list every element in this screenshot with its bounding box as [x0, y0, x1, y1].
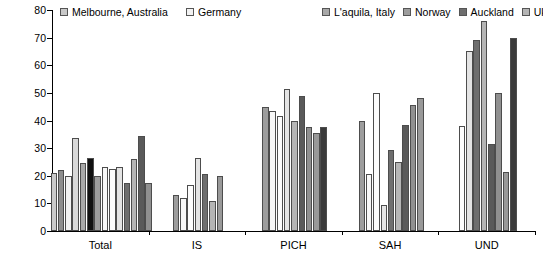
- bar: [503, 172, 510, 231]
- bar: [320, 127, 327, 231]
- y-axis-tick-label: 0: [40, 226, 46, 237]
- chart-root: 01020304050607080 TotalISPICHSAHUND Melb…: [0, 0, 543, 267]
- bar: [131, 159, 138, 231]
- bar: [138, 136, 145, 231]
- x-axis-tick-label: UND: [475, 240, 499, 251]
- bar: [116, 167, 123, 231]
- bar: [488, 144, 495, 231]
- legend-item-label: Melbourne, Australia: [72, 7, 168, 18]
- bar: [359, 121, 366, 232]
- legend-item-label: Norway: [415, 7, 451, 18]
- x-axis-tick: [438, 231, 439, 235]
- bar: [187, 185, 194, 231]
- y-axis-tick: [47, 148, 52, 149]
- legend-item[interactable]: Norway: [403, 6, 451, 19]
- bar: [510, 38, 517, 231]
- bar: [459, 126, 466, 231]
- bar: [299, 96, 306, 231]
- bar: [58, 170, 65, 231]
- bar: [402, 125, 409, 231]
- legend-swatch-icon: [522, 8, 530, 16]
- bar: [51, 173, 58, 231]
- bar: [87, 158, 94, 231]
- bar: [306, 127, 313, 231]
- x-axis-tick-label: SAH: [379, 240, 402, 251]
- y-axis-tick: [47, 231, 52, 232]
- bar: [495, 93, 502, 231]
- y-axis-tick-label: 50: [34, 88, 46, 99]
- bar: [388, 150, 395, 231]
- x-axis-tick-label: PICH: [280, 240, 306, 251]
- bar: [313, 133, 320, 231]
- y-axis-tick-label: 20: [34, 171, 46, 182]
- bar: [217, 176, 224, 231]
- legend-swatch-icon: [60, 8, 68, 16]
- y-axis-tick-label: 70: [34, 33, 46, 44]
- y-axis-tick-label: 80: [34, 5, 46, 16]
- bar: [473, 40, 480, 231]
- legend-item-label: Germany: [198, 7, 241, 18]
- x-axis-tick: [535, 231, 536, 235]
- bar: [291, 121, 298, 232]
- bar: [72, 138, 79, 231]
- x-axis-labels: TotalISPICHSAHUND: [52, 240, 536, 256]
- x-axis-line: [52, 231, 536, 232]
- x-axis-tick-label: IS: [192, 240, 202, 251]
- legend-item[interactable]: L'aquila, Italy: [322, 6, 395, 19]
- bar: [373, 93, 380, 231]
- x-axis-tick: [149, 231, 150, 235]
- legend-item[interactable]: Auckland: [459, 6, 514, 19]
- legend-swatch-icon: [459, 8, 467, 16]
- bar: [102, 167, 109, 231]
- legend-item-label: Auckland: [471, 7, 514, 18]
- legend-swatch-icon: [322, 8, 330, 16]
- y-axis-tick-label: 60: [34, 60, 46, 71]
- bar: [145, 183, 152, 231]
- legend-item-label: L'aquila, Italy: [334, 7, 395, 18]
- bar: [124, 183, 131, 231]
- bar: [195, 158, 202, 231]
- bar: [202, 174, 209, 231]
- bar: [80, 163, 87, 231]
- legend-item[interactable]: Ukraine: [522, 6, 543, 19]
- legend-swatch-icon: [186, 8, 194, 16]
- x-axis-tick: [342, 231, 343, 235]
- legend-item[interactable]: Melbourne, Australia: [60, 6, 178, 19]
- bar: [94, 176, 101, 231]
- chart-legend: Melbourne, AustraliaGermanyL'aquila, Ita…: [60, 6, 320, 19]
- bar: [481, 21, 488, 231]
- y-axis-tick: [47, 38, 52, 39]
- bar: [381, 205, 388, 231]
- legend-item-label: Ukraine: [534, 7, 543, 18]
- bar: [466, 51, 473, 231]
- y-axis-tick: [47, 10, 52, 11]
- y-axis-tick: [47, 93, 52, 94]
- legend-item[interactable]: Germany: [186, 6, 314, 19]
- bar: [417, 98, 424, 231]
- bar: [366, 174, 373, 231]
- bar: [109, 169, 116, 231]
- x-axis-tick-label: Total: [89, 240, 112, 251]
- bar: [65, 176, 72, 231]
- bar: [410, 105, 417, 231]
- y-axis-tick-label: 10: [34, 198, 46, 209]
- plot-area: [52, 10, 536, 232]
- bar: [395, 162, 402, 231]
- bar: [209, 201, 216, 231]
- bar: [269, 111, 276, 231]
- bar: [277, 116, 284, 231]
- y-axis-tick: [47, 121, 52, 122]
- bar: [262, 107, 269, 231]
- bar: [173, 195, 180, 231]
- legend-swatch-icon: [403, 8, 411, 16]
- bars-layer: [53, 10, 536, 231]
- y-axis-tick-label: 40: [34, 116, 46, 127]
- x-axis-tick: [245, 231, 246, 235]
- bar: [284, 89, 291, 231]
- bar: [180, 198, 187, 231]
- y-axis-labels: 01020304050607080: [0, 10, 46, 232]
- y-axis-tick: [47, 65, 52, 66]
- y-axis-tick-label: 30: [34, 143, 46, 154]
